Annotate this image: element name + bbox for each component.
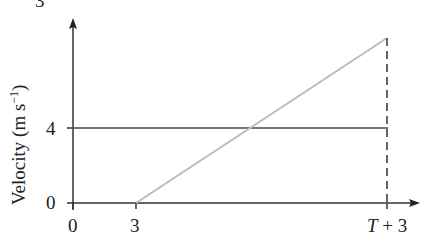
accelerating-velocity-line [136, 38, 387, 203]
corner-label: 3 [35, 0, 45, 10]
x-tick-label-plus3: + 3 [378, 215, 408, 236]
x-tick-label-t: T [367, 215, 378, 236]
y-axis-label-text: Velocity (m s [8, 104, 29, 205]
y-tick-label-4: 4 [46, 119, 56, 138]
x-tick-label-t3: T + 3 [367, 216, 407, 235]
y-axis-label-close: ) [8, 85, 29, 91]
y-tick-label-0: 0 [46, 193, 56, 212]
chart-canvas [0, 0, 427, 250]
y-axis-label: Velocity (m s−1) [7, 85, 30, 205]
x-tick-label-0: 0 [68, 216, 78, 235]
x-tick-label-3: 3 [130, 216, 140, 235]
y-axis-label-sup: −1 [7, 91, 21, 104]
